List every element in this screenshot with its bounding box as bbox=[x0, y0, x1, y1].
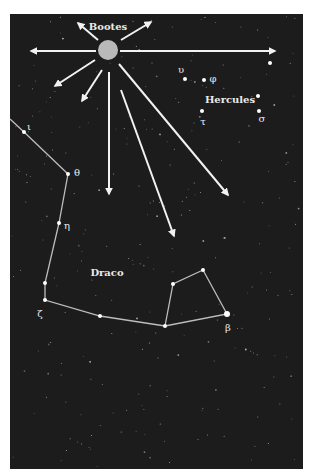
faint-star bbox=[34, 413, 35, 414]
faint-star bbox=[132, 260, 133, 261]
faint-star bbox=[46, 397, 47, 398]
faint-star bbox=[298, 208, 300, 210]
faint-star bbox=[116, 129, 117, 130]
faint-star bbox=[61, 363, 62, 364]
faint-star bbox=[43, 239, 44, 240]
faint-star bbox=[46, 156, 47, 157]
faint-star bbox=[285, 152, 287, 154]
star-greek-label: β bbox=[225, 322, 231, 333]
faint-star bbox=[65, 153, 66, 154]
faint-star bbox=[286, 164, 287, 165]
faint-star bbox=[247, 293, 248, 294]
faint-star bbox=[136, 46, 137, 47]
faint-star bbox=[278, 295, 279, 296]
faint-star bbox=[152, 129, 153, 130]
star-icon bbox=[43, 281, 47, 285]
faint-star bbox=[172, 26, 173, 27]
meteor-shower-diagram: Bootes υφτσHerculesιθηζβDraco bbox=[0, 0, 311, 476]
star-icon bbox=[202, 78, 206, 82]
faint-star bbox=[202, 408, 203, 409]
faint-star bbox=[47, 373, 49, 375]
faint-star bbox=[60, 17, 61, 18]
faint-star bbox=[167, 141, 168, 142]
faint-star bbox=[257, 416, 258, 417]
faint-star bbox=[91, 175, 92, 176]
star-icon bbox=[256, 94, 260, 98]
faint-star bbox=[202, 410, 203, 411]
faint-star bbox=[56, 285, 57, 286]
star-greek-label: θ bbox=[74, 167, 80, 178]
faint-star bbox=[164, 441, 165, 442]
faint-star bbox=[291, 294, 292, 295]
faint-star bbox=[30, 176, 31, 177]
faint-star bbox=[202, 85, 203, 86]
star-icon bbox=[171, 282, 175, 286]
faint-star bbox=[245, 349, 247, 351]
faint-star bbox=[15, 169, 16, 170]
faint-star bbox=[240, 27, 241, 28]
faint-star bbox=[269, 225, 270, 226]
faint-star bbox=[273, 377, 274, 378]
faint-star bbox=[98, 189, 100, 191]
faint-star bbox=[12, 235, 13, 236]
faint-star bbox=[149, 311, 150, 312]
faint-star bbox=[174, 149, 175, 150]
faint-star bbox=[215, 22, 216, 23]
faint-star bbox=[91, 435, 92, 436]
faint-star bbox=[13, 457, 14, 458]
faint-star bbox=[294, 181, 295, 182]
faint-star bbox=[257, 354, 258, 355]
faint-star bbox=[194, 183, 195, 184]
faint-star bbox=[85, 229, 86, 230]
faint-star bbox=[156, 75, 158, 77]
faint-star bbox=[286, 357, 287, 358]
faint-star bbox=[159, 134, 161, 136]
faint-star bbox=[111, 333, 112, 334]
faint-star bbox=[142, 405, 143, 406]
faint-star bbox=[77, 442, 78, 443]
faint-star bbox=[61, 460, 62, 461]
faint-star bbox=[78, 245, 80, 247]
faint-star bbox=[175, 98, 176, 99]
faint-star bbox=[138, 394, 139, 395]
faint-star bbox=[133, 264, 134, 265]
faint-star bbox=[290, 63, 291, 64]
faint-star bbox=[19, 171, 20, 172]
faint-star bbox=[15, 126, 16, 127]
faint-star bbox=[150, 385, 151, 386]
star-icon bbox=[183, 77, 187, 81]
faint-star bbox=[50, 97, 51, 98]
faint-star bbox=[268, 443, 269, 444]
faint-star bbox=[90, 97, 91, 98]
faint-star bbox=[286, 16, 287, 17]
star-icon bbox=[200, 109, 204, 113]
faint-star bbox=[74, 193, 75, 194]
faint-star bbox=[295, 224, 296, 225]
faint-star bbox=[191, 130, 192, 131]
faint-star bbox=[149, 457, 151, 459]
faint-star bbox=[150, 203, 151, 204]
faint-star bbox=[252, 286, 253, 287]
faint-star bbox=[113, 173, 114, 174]
faint-star bbox=[239, 141, 240, 142]
faint-star bbox=[201, 19, 202, 20]
faint-star bbox=[149, 343, 150, 344]
star-icon bbox=[22, 130, 26, 134]
faint-star bbox=[172, 271, 173, 272]
faint-star bbox=[167, 390, 168, 391]
faint-star bbox=[155, 333, 156, 334]
faint-star bbox=[82, 251, 83, 252]
faint-star bbox=[88, 122, 89, 123]
faint-star bbox=[39, 111, 40, 112]
faint-star bbox=[129, 116, 130, 117]
faint-star bbox=[186, 197, 187, 198]
star-icon bbox=[43, 298, 47, 302]
faint-star bbox=[34, 65, 35, 66]
faint-star bbox=[77, 271, 78, 272]
faint-star bbox=[81, 414, 82, 415]
star-greek-label: ζ bbox=[37, 308, 43, 319]
faint-star bbox=[140, 244, 141, 245]
star-icon bbox=[268, 61, 272, 65]
faint-star bbox=[35, 80, 36, 81]
faint-star bbox=[223, 88, 224, 89]
